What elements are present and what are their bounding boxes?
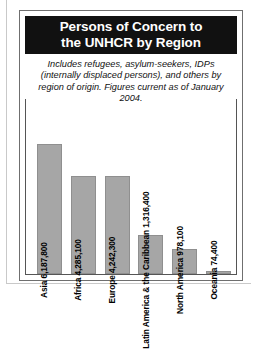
page-edge-rule-bottom bbox=[6, 283, 251, 284]
chart-subtitle: Includes refugees, asylum-seekers, IDPs … bbox=[28, 59, 234, 105]
bar-label-holder: North America 978,100 bbox=[168, 99, 201, 274]
page-edge-rule-left bbox=[6, 0, 7, 283]
bar-slot: Europe 4,242,300 bbox=[101, 99, 134, 274]
bar-series: Asia 6,187,800Africa 4,285,100Europe 4,2… bbox=[26, 99, 236, 274]
chart-title: Persons of Concern to the UNHCR by Regio… bbox=[60, 19, 203, 51]
bar[interactable] bbox=[37, 144, 62, 274]
bar[interactable] bbox=[71, 176, 96, 274]
chart-plot-area: Asia 6,187,800Africa 4,285,100Europe 4,2… bbox=[25, 99, 237, 275]
bar-slot: Latin America & the Caribbean 1,316,400 bbox=[134, 99, 167, 274]
bar-label-holder: Oceania 74,400 bbox=[202, 99, 235, 274]
bar[interactable] bbox=[206, 271, 231, 274]
chart-figure: Persons of Concern to the UNHCR by Regio… bbox=[19, 10, 243, 281]
bar[interactable] bbox=[138, 235, 163, 274]
bar-slot: Oceania 74,400 bbox=[202, 99, 235, 274]
bar[interactable] bbox=[105, 176, 130, 274]
chart-title-banner: Persons of Concern to the UNHCR by Regio… bbox=[25, 16, 237, 54]
bar-slot: Africa 4,285,100 bbox=[67, 99, 100, 274]
bar-slot: North America 978,100 bbox=[168, 99, 201, 274]
bar-label: Oceania 74,400 bbox=[210, 240, 219, 299]
bar[interactable] bbox=[172, 249, 197, 274]
bar-slot: Asia 6,187,800 bbox=[33, 99, 66, 274]
